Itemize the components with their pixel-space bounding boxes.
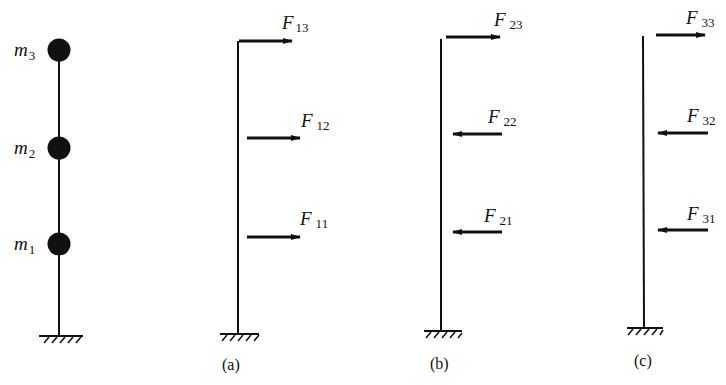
force-label-f12: F12 xyxy=(300,110,330,133)
mass-1-label: m1 xyxy=(14,233,35,257)
fixed-support-icon xyxy=(424,331,462,338)
force-label-f21: F21 xyxy=(483,205,513,228)
mass-3-label: m3 xyxy=(14,39,35,63)
panel-c-column xyxy=(643,36,644,328)
fixed-support-icon xyxy=(627,328,663,335)
lumped-mass-model: m3 m2 m1 xyxy=(14,39,83,344)
force-label-f23: F23 xyxy=(493,9,523,32)
fixed-support-icon xyxy=(220,334,259,341)
mass-3 xyxy=(48,39,71,62)
mass-2 xyxy=(48,137,71,160)
force-label-f33: F33 xyxy=(685,7,715,30)
panel-c: F33 F32 F31 (c) xyxy=(627,7,716,370)
panel-a-caption: (a) xyxy=(222,356,240,374)
mass-2-label: m2 xyxy=(14,137,35,161)
force-label-f11: F11 xyxy=(299,208,328,231)
structural-dynamics-figure: m3 m2 m1 F13 F12 F11 (a) F23 F22 F21 (b) xyxy=(0,0,726,385)
panel-b-caption: (b) xyxy=(430,355,449,373)
panel-a: F13 F12 F11 (a) xyxy=(220,12,330,374)
force-label-f31: F31 xyxy=(686,203,716,226)
force-label-f32: F32 xyxy=(686,105,716,128)
fixed-support-icon xyxy=(39,336,83,343)
panel-c-caption: (c) xyxy=(634,352,652,370)
panel-b: F23 F22 F21 (b) xyxy=(424,9,523,373)
force-label-f13: F13 xyxy=(281,12,309,35)
mass-1 xyxy=(48,233,71,256)
force-label-f22: F22 xyxy=(487,106,517,129)
